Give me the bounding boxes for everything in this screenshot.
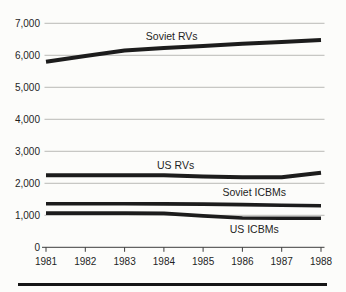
series-line-us-icbms [46, 213, 321, 218]
y-tick-label: 6,000 [15, 50, 40, 61]
y-tick-label: 2,000 [15, 178, 40, 189]
x-tick-label: 1983 [113, 256, 136, 267]
x-tick-label: 1984 [153, 256, 176, 267]
chart-canvas: 01,0002,0003,0004,0005,0006,0007,0001981… [0, 0, 346, 292]
bottom-rule [18, 283, 327, 286]
x-tick-label: 1986 [231, 256, 254, 267]
y-tick-label: 4,000 [15, 114, 40, 125]
x-tick-label: 1982 [74, 256, 97, 267]
series-line-soviet-icbms [46, 204, 321, 206]
series-line-soviet-rvs [46, 40, 321, 62]
x-tick-label: 1987 [271, 256, 294, 267]
x-tick-label: 1981 [35, 256, 58, 267]
series-label-soviet-rvs: Soviet RVs [146, 30, 198, 42]
y-tick-label: 5,000 [15, 82, 40, 93]
series-label-soviet-icbms: Soviet ICBMs [222, 186, 286, 198]
y-tick-label: 1,000 [15, 210, 40, 221]
series-line-us-rvs [46, 173, 321, 178]
y-tick-label: 0 [34, 242, 40, 253]
series-label-us-rvs: US RVs [157, 159, 194, 171]
y-tick-label: 3,000 [15, 146, 40, 157]
series-label-us-icbms: US ICBMs [230, 223, 279, 235]
x-tick-label: 1985 [192, 256, 215, 267]
y-tick-label: 7,000 [15, 18, 40, 29]
x-tick-label: 1988 [310, 256, 333, 267]
strategic-forces-chart: 01,0002,0003,0004,0005,0006,0007,0001981… [0, 0, 346, 292]
